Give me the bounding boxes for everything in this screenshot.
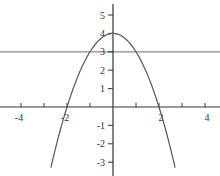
y-tick-label: -2 [97, 138, 105, 149]
y-tick-label: 1 [100, 83, 105, 94]
y-tick-label: -1 [97, 120, 105, 131]
x-tick-label: 4 [205, 112, 210, 123]
plot-area: -4-224-3-2-112345 [0, 0, 220, 176]
x-tick-label: -4 [15, 112, 23, 123]
y-tick-label: -3 [97, 157, 105, 168]
axes [0, 4, 220, 176]
y-tick-label: 3 [100, 46, 105, 57]
y-tick-label: 2 [100, 65, 105, 76]
y-tick-label: 5 [100, 10, 105, 21]
